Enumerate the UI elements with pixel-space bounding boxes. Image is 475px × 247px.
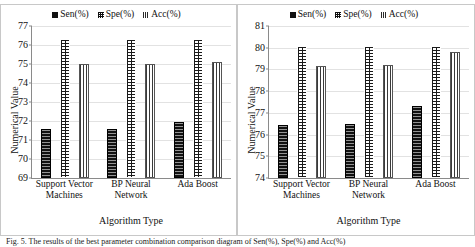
figure-container: Sen(%) Spe(%) Acc(%) Numerical Value 697… (0, 0, 475, 247)
y-tick-label: 75 (255, 151, 265, 161)
bar-spe[interactable] (364, 46, 374, 178)
x-axis-category-label: Ada Boost (402, 179, 469, 205)
bar-sen[interactable] (107, 129, 117, 178)
y-tick-label: 70 (18, 154, 28, 164)
bar-acc[interactable] (79, 64, 89, 178)
legend-label-spe: Spe(%) (106, 10, 135, 20)
bar-spe[interactable] (193, 39, 203, 178)
bar-acc[interactable] (145, 64, 155, 178)
y-tick-label: 76 (18, 40, 28, 50)
bar-group (336, 26, 403, 178)
legend-item-spe: Spe(%) (98, 10, 135, 20)
x-axis-category-label: Support Vector Machines (31, 179, 98, 205)
legend-swatch-solid-icon (290, 12, 296, 18)
y-tick-label: 80 (255, 43, 265, 53)
legend-label-sen: Sen(%) (298, 10, 327, 20)
x-axis-labels-right: Support Vector MachinesBP Neural Network… (268, 179, 469, 205)
chart-legend-right: Sen(%) Spe(%) Acc(%) (238, 10, 470, 20)
bar-sen[interactable] (412, 106, 422, 178)
plot-left: 697071727374757677 (31, 26, 231, 179)
bar-group (402, 26, 469, 178)
y-tick-label: 76 (255, 130, 265, 140)
y-tick-label: 81 (255, 21, 265, 31)
figure-caption: Fig. 5. The results of the best paramete… (6, 238, 469, 247)
plot-area-right: 7475767778798081 (268, 26, 469, 179)
legend-item-spe: Spe(%) (335, 10, 372, 20)
y-tick-label: 77 (18, 21, 28, 31)
x-axis-title-left: Algorithm Type (31, 215, 231, 226)
legend-swatch-striped-icon (143, 12, 149, 18)
legend-item-sen: Sen(%) (52, 10, 89, 20)
y-tick-label: 75 (18, 59, 28, 69)
legend-item-acc: Acc(%) (143, 10, 181, 20)
y-tick-label: 74 (18, 78, 28, 88)
y-tick-label: 71 (18, 135, 28, 145)
plot-right: 7475767778798081 (268, 26, 469, 179)
x-axis-category-label: Support Vector Machines (268, 179, 335, 205)
legend-swatch-dotted-icon (98, 12, 104, 18)
legend-item-sen: Sen(%) (290, 10, 327, 20)
legend-label-sen: Sen(%) (60, 10, 89, 20)
bar-sen[interactable] (174, 122, 184, 178)
legend-swatch-dotted-icon (335, 12, 341, 18)
y-tick-label: 74 (255, 173, 265, 183)
bar-group (98, 26, 164, 178)
y-tick-label: 72 (18, 116, 28, 126)
x-axis-category-label: Ada Boost (164, 179, 231, 205)
bar-acc[interactable] (316, 66, 326, 178)
bar-sen[interactable] (278, 125, 288, 178)
legend-label-acc: Acc(%) (389, 10, 419, 20)
y-tick-label: 73 (18, 97, 28, 107)
legend-item-acc: Acc(%) (381, 10, 419, 20)
bar-sen[interactable] (345, 124, 355, 178)
x-axis-labels-left: Support Vector MachinesBP Neural Network… (31, 179, 231, 205)
y-tick-label: 77 (255, 108, 265, 118)
bar-sen[interactable] (41, 129, 51, 178)
plot-area-left: 697071727374757677 (31, 26, 231, 179)
bar-spe[interactable] (126, 39, 136, 178)
bar-acc[interactable] (212, 62, 222, 178)
y-tick-label: 79 (255, 64, 265, 74)
bar-groups-right (269, 26, 469, 178)
charts-row: Sen(%) Spe(%) Acc(%) Numerical Value 697… (0, 4, 475, 236)
legend-label-spe: Spe(%) (343, 10, 372, 20)
bar-acc[interactable] (383, 65, 393, 178)
x-axis-title-right: Algorithm Type (268, 215, 469, 226)
bar-group (32, 26, 98, 178)
bar-group (165, 26, 231, 178)
bar-groups-left (32, 26, 231, 178)
y-tick-label: 78 (255, 86, 265, 96)
y-tick-label: 69 (18, 173, 28, 183)
bar-spe[interactable] (431, 46, 441, 178)
chart-panel-right: Sen(%) Spe(%) Acc(%) Numerical Value 747… (237, 4, 475, 236)
chart-legend-left: Sen(%) Spe(%) Acc(%) (1, 10, 232, 20)
chart-panel-left: Sen(%) Spe(%) Acc(%) Numerical Value 697… (0, 4, 237, 236)
bar-group (269, 26, 336, 178)
legend-swatch-solid-icon (52, 12, 58, 18)
x-axis-category-label: BP Neural Network (98, 179, 165, 205)
x-axis-category-label: BP Neural Network (335, 179, 402, 205)
bar-spe[interactable] (60, 39, 70, 178)
legend-swatch-striped-icon (381, 12, 387, 18)
bar-spe[interactable] (297, 46, 307, 178)
bar-acc[interactable] (450, 52, 460, 178)
legend-label-acc: Acc(%) (151, 10, 181, 20)
